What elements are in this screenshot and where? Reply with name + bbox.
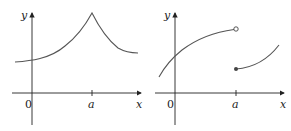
right-tick-label: a [232,98,239,111]
filled-dot-endpoint [234,67,238,71]
right-graph: y 0 a x [155,9,287,125]
right-curve-left-piece [159,30,234,78]
left-origin-label: 0 [25,98,32,111]
right-y-label: y [163,9,171,22]
right-x-label: x [280,98,287,111]
left-y-label: y [20,9,28,22]
left-tick-label: a [88,98,95,111]
left-curve-cusp [15,13,138,62]
right-origin-label: 0 [167,98,174,111]
diagram-canvas: y 0 a x y 0 a x [0,0,291,131]
right-curve-right-piece [236,45,279,69]
left-x-label: x [136,98,143,111]
open-circle-endpoint [234,27,238,31]
left-graph: y 0 a x [12,9,143,125]
